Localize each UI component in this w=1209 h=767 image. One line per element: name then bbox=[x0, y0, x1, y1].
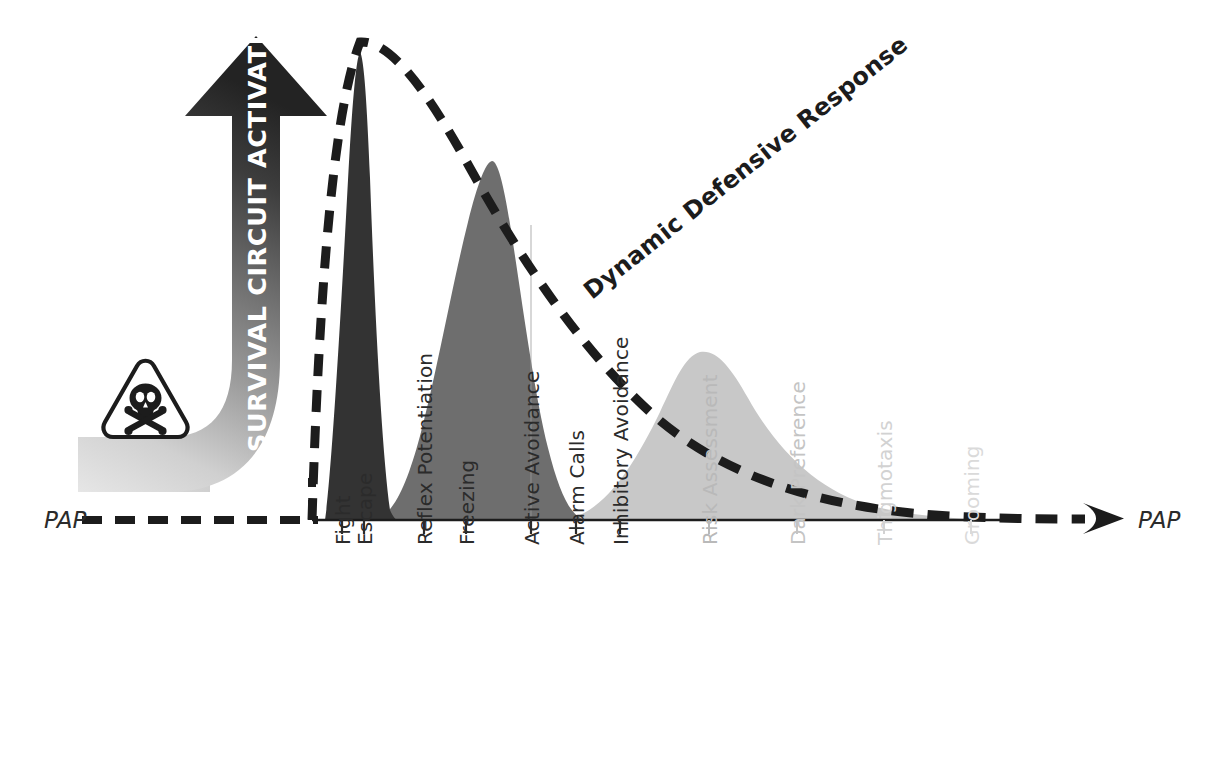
category-label-thigmotaxis: Thigmotaxis bbox=[873, 420, 897, 546]
category-label-escape: Escape bbox=[353, 472, 377, 545]
category-label-alarm-calls: Alarm Calls bbox=[565, 430, 589, 545]
figure-canvas: SURVIVAL CIRCUIT ACTIVATION bbox=[0, 0, 1209, 767]
pap-label-right: PAP bbox=[1138, 507, 1180, 533]
x-axis-ticks-faded bbox=[709, 520, 971, 534]
category-label-freezing: Freezing bbox=[455, 460, 479, 545]
category-label-dark-preference: Dark Preference bbox=[786, 381, 810, 545]
survival-circuit-activation-arrow: SURVIVAL CIRCUIT ACTIVATION bbox=[78, 0, 327, 492]
category-label-inhibitory-avoidance: Inhibitory Avoidance bbox=[609, 336, 633, 545]
pap-label-left: PAP bbox=[44, 507, 86, 533]
category-label-reflex-potentiation: Reflex Potentiation bbox=[413, 353, 437, 545]
series-area-reflex-freezing bbox=[372, 161, 586, 520]
defensive-response-figure: SURVIVAL CIRCUIT ACTIVATION bbox=[0, 0, 1209, 767]
category-label-risk-assessment: Risk Assessment bbox=[698, 374, 722, 545]
y-axis-label: SURVIVAL CIRCUIT ACTIVATION bbox=[242, 0, 272, 452]
category-label-grooming: Grooming bbox=[960, 445, 984, 545]
envelope-label: Dynamic Defensive Response bbox=[578, 30, 913, 304]
series-area-fight-escape bbox=[325, 52, 398, 520]
category-label-active-avoidance: Active Avoidance bbox=[520, 371, 544, 546]
category-label-fight: Fight bbox=[331, 495, 355, 545]
skull-crossbones-warning-icon bbox=[103, 361, 187, 437]
